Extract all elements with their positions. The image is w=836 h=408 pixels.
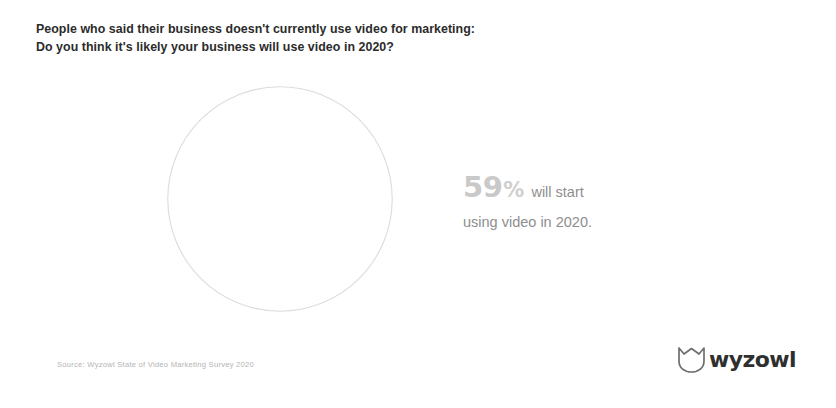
callout-text-2: using video in 2020. (463, 214, 592, 230)
stat-value: 59 (463, 170, 502, 204)
pie-chart (167, 86, 393, 312)
source-caption: Source: Wyzowl State of Video Marketing … (57, 360, 254, 369)
percent-sign-icon: % (503, 178, 524, 202)
heading-line-2: Do you think it's likely your business w… (36, 39, 656, 57)
wyzowl-owl-mark-icon (677, 346, 706, 374)
heading-line-1: People who said their business doesn't c… (36, 21, 656, 39)
pie-chart-svg (167, 86, 393, 312)
page-title: People who said their business doesn't c… (36, 21, 656, 56)
pie-slice-outline (168, 87, 392, 311)
wyzowl-logo: wyzowl (677, 345, 796, 375)
wyzowl-wordmark: wyzowl (709, 349, 796, 371)
callout-line-2: using video in 2020. (463, 208, 763, 236)
callout-statistic: 59%will start using video in 2020. (463, 172, 763, 236)
callout-text-1: will start (531, 184, 583, 200)
infographic-slide: People who said their business doesn't c… (0, 0, 836, 408)
callout-line-1: 59%will start (463, 172, 763, 207)
